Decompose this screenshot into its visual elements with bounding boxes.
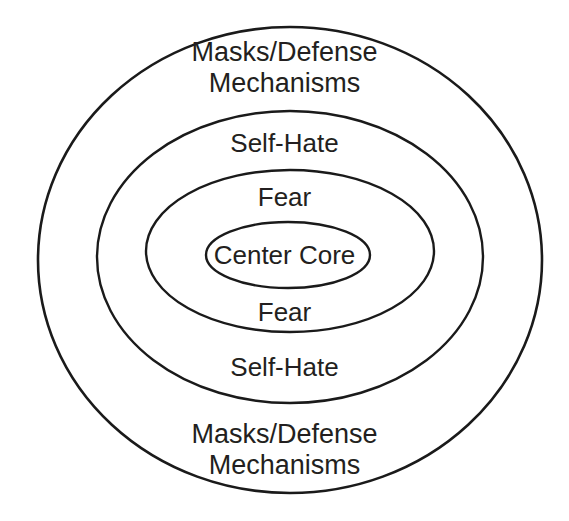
label-fear-top: Fear — [0, 182, 569, 212]
label-center-core: Center Core — [0, 240, 569, 270]
label-self-hate-bottom: Self-Hate — [0, 352, 569, 382]
label-masks-defense-mechanisms-top: Masks/Defense Mechanisms — [0, 37, 569, 100]
label-masks-defense-mechanisms-bottom: Masks/Defense Mechanisms — [0, 419, 569, 482]
label-self-hate-top: Self-Hate — [0, 128, 569, 158]
concentric-layers-diagram: Masks/Defense Mechanisms Self-Hate Fear … — [0, 0, 569, 521]
label-fear-bottom: Fear — [0, 297, 569, 327]
